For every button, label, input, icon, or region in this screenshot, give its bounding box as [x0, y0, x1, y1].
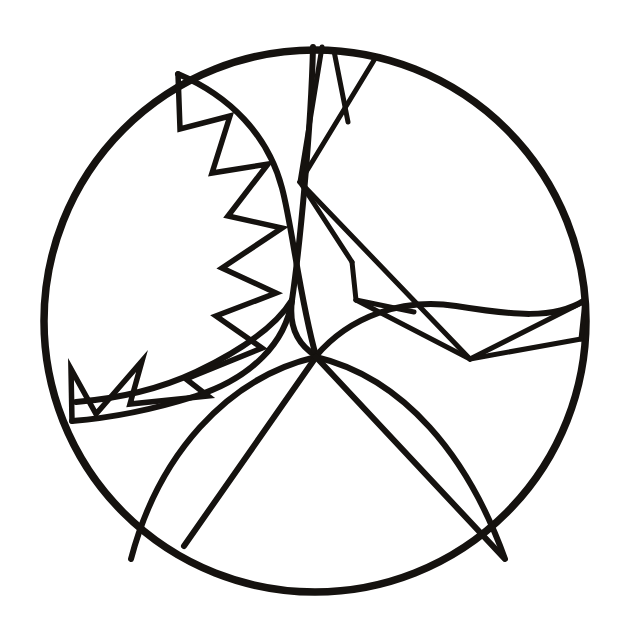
- circular-line-art-figure: Abstract Circular Line Art Black line dr…: [0, 0, 625, 644]
- artboard: Abstract Circular Line Art Black line dr…: [0, 0, 625, 644]
